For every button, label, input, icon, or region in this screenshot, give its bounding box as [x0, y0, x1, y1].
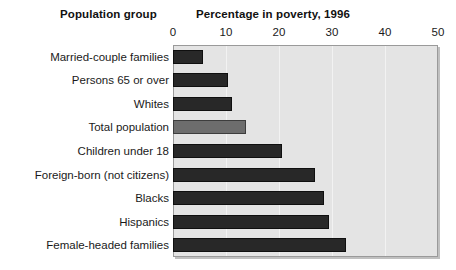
bar-row: Married-couple families — [0, 45, 456, 69]
category-label: Hispanics — [119, 216, 169, 228]
category-label: Persons 65 or over — [72, 74, 169, 86]
poverty-bar-chart: Population group Percentage in poverty, … — [0, 0, 456, 270]
chart-title: Percentage in poverty, 1996 — [196, 8, 350, 20]
x-tick-label-30: 30 — [326, 26, 339, 38]
x-tick-label-20: 20 — [273, 26, 286, 38]
bar — [173, 144, 282, 158]
bar — [173, 97, 232, 111]
x-tick-label-40: 40 — [379, 26, 392, 38]
bar — [173, 168, 315, 182]
category-label: Foreign-born (not citizens) — [35, 169, 169, 181]
bar-row: Hispanics — [0, 210, 456, 234]
bar — [173, 50, 203, 64]
category-label: Total population — [88, 121, 169, 133]
x-axis: 01020304050 — [0, 26, 456, 42]
bar — [173, 238, 346, 252]
category-label: Married-couple families — [50, 51, 169, 63]
x-tick-label-50: 50 — [432, 26, 445, 38]
bar-row: Persons 65 or over — [0, 69, 456, 93]
x-tick-label-0: 0 — [170, 26, 176, 38]
bar-row: Blacks — [0, 186, 456, 210]
bar-rows: Married-couple familiesPersons 65 or ove… — [0, 45, 456, 257]
bar — [173, 215, 329, 229]
bar-row: Foreign-born (not citizens) — [0, 163, 456, 187]
bar-row: Female-headed families — [0, 233, 456, 257]
bar-row: Children under 18 — [0, 139, 456, 163]
category-label: Children under 18 — [78, 145, 169, 157]
category-label: Blacks — [135, 192, 169, 204]
bar — [173, 120, 246, 134]
bar — [173, 73, 228, 87]
bar-row: Whites — [0, 92, 456, 116]
bar — [173, 191, 324, 205]
category-label: Whites — [134, 98, 169, 110]
bar-row: Total population — [0, 116, 456, 140]
x-tick-label-10: 10 — [220, 26, 233, 38]
population-group-title: Population group — [60, 8, 157, 20]
category-label: Female-headed families — [46, 239, 169, 251]
